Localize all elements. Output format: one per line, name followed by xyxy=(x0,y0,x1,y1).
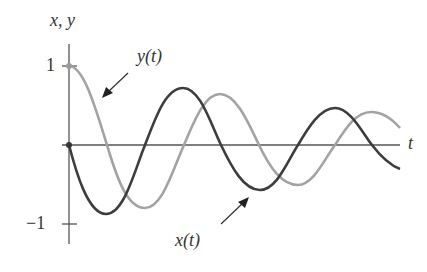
y-start-point xyxy=(66,63,72,69)
tick-label-neg-1: −1 xyxy=(26,213,45,234)
series-y-label: y(t) xyxy=(137,46,162,67)
arrow-y-label xyxy=(102,73,128,98)
series-x-curve xyxy=(69,88,400,214)
x-axis-label: t xyxy=(408,133,413,154)
tick-label-1: 1 xyxy=(46,55,55,76)
chart-canvas xyxy=(0,0,427,272)
x-start-point xyxy=(66,142,72,148)
y-axis-label: x, y xyxy=(50,10,75,31)
series-x-label: x(t) xyxy=(175,230,200,251)
series-y-curve xyxy=(69,66,400,208)
arrow-x-label xyxy=(221,197,249,224)
